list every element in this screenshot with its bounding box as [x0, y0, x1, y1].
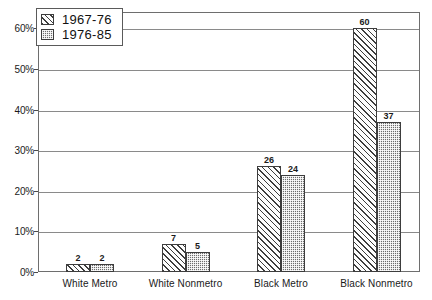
bar: 2 — [66, 264, 90, 272]
x-axis-category-label: Black Metro — [254, 278, 308, 289]
legend-item-1: 1976-85 — [41, 27, 112, 42]
bar-chart: 0%10%20%30%40%50%60% 272660252437 White … — [0, 0, 432, 300]
legend-label-0: 1967-76 — [62, 13, 112, 27]
bar-value-label: 7 — [171, 233, 176, 243]
y-axis-tick-mark — [34, 272, 38, 273]
bar: 5 — [186, 252, 210, 272]
y-axis: 0%10%20%30%40%50%60% — [0, 0, 34, 300]
legend-swatch-checker-icon — [41, 29, 54, 40]
y-axis-tick-label: 50% — [15, 63, 34, 74]
y-axis-tick-label: 10% — [15, 226, 34, 237]
legend-swatch-hatch-icon — [41, 14, 54, 25]
x-axis-category-label: Black Nonmetro — [340, 278, 413, 289]
bar-value-label: 60 — [359, 17, 369, 27]
bar-value-label: 2 — [99, 253, 104, 263]
bar-value-label: 2 — [75, 253, 80, 263]
chart-legend: 1967-76 1976-85 — [36, 8, 123, 46]
y-axis-tick-label: 60% — [15, 23, 34, 34]
y-axis-tick-label: 30% — [15, 145, 34, 156]
y-axis-tick-label: 0% — [20, 267, 34, 278]
bar: 26 — [257, 166, 281, 272]
x-axis-category-label: White Nonmetro — [149, 278, 223, 289]
legend-item-0: 1967-76 — [41, 12, 112, 27]
bar-value-label: 26 — [264, 155, 274, 165]
bar: 60 — [353, 28, 377, 272]
y-axis-tick-label: 40% — [15, 104, 34, 115]
bar-value-label: 37 — [383, 111, 393, 121]
bar: 24 — [281, 175, 305, 273]
y-axis-tick-label: 20% — [15, 185, 34, 196]
bar: 37 — [377, 122, 401, 272]
bar: 2 — [90, 264, 114, 272]
bar-value-label: 24 — [288, 164, 298, 174]
bars-layer: 272660252437 — [38, 12, 420, 272]
bar-value-label: 5 — [195, 241, 200, 251]
x-axis-category-label: White Metro — [62, 278, 117, 289]
bar: 7 — [162, 244, 186, 272]
legend-label-1: 1976-85 — [62, 28, 112, 42]
